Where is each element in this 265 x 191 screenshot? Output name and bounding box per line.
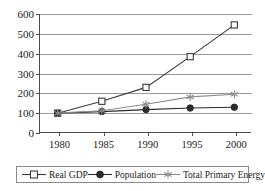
- legend-label-real-gdp: Real GDP: [48, 170, 88, 180]
- data-point-marker: [143, 84, 149, 90]
- asterisk-marker-icon: [156, 169, 180, 180]
- y-axis-label-200: 200: [18, 88, 35, 99]
- y-axis-label-100: 100: [18, 108, 35, 119]
- series-layer: [54, 22, 238, 117]
- y-axis-label-600: 600: [18, 9, 35, 20]
- x-axis-label-2000: 2000: [226, 139, 247, 150]
- x-axis-label-1980: 1980: [49, 139, 70, 150]
- legend-item-real-gdp[interactable]: Real GDP: [22, 169, 88, 180]
- data-point-marker: [231, 104, 237, 110]
- y-axis-label-0: 0: [29, 128, 35, 139]
- y-axis-label-400: 400: [18, 48, 35, 59]
- data-point-marker: [231, 22, 237, 28]
- data-point-marker: [187, 105, 193, 111]
- y-axis-label-500: 500: [18, 28, 35, 39]
- x-axis-label-1995: 1995: [182, 139, 203, 150]
- open-square-marker-icon: [22, 169, 46, 180]
- legend-item-total-primary-energy[interactable]: Total Primary Energy: [156, 169, 265, 180]
- series-plot: [40, 14, 252, 133]
- index-line-chart: 600 500 400 300 200 100 0 1980 1985 1990…: [0, 0, 265, 191]
- y-axis-label-300: 300: [18, 68, 35, 79]
- x-axis-label-1985: 1985: [93, 139, 114, 150]
- legend-label-population: Population: [114, 170, 156, 180]
- legend-label-total-primary-energy: Total Primary Energy: [182, 170, 265, 180]
- legend-item-population[interactable]: Population: [88, 169, 156, 180]
- filled-circle-marker-icon: [88, 169, 112, 180]
- chart-legend: Real GDP Population Total Primary Energy: [16, 166, 249, 183]
- data-point-marker: [187, 54, 193, 60]
- plot-area: 600 500 400 300 200 100 0 1980 1985 1990…: [39, 14, 251, 133]
- y-tick-0: [36, 133, 40, 134]
- x-axis-label-1990: 1990: [137, 139, 158, 150]
- data-point-marker: [99, 98, 105, 104]
